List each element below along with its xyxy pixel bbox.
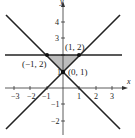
x-tick-label: −1 xyxy=(42,92,51,101)
point-neg1-2 xyxy=(45,53,49,57)
x-tick-label: 2 xyxy=(94,92,98,101)
y-tick-label: 3 xyxy=(55,34,59,43)
graph: −3 −2 −1 1 2 3 4 3 1 −1 −2 x y (−1, 2) (… xyxy=(0,0,135,138)
point-1-2 xyxy=(77,53,81,57)
x-tick-label: −3 xyxy=(11,92,20,101)
y-tick-label: −2 xyxy=(51,117,60,126)
y-tick-label: 4 xyxy=(55,18,59,27)
x-tick-label: 3 xyxy=(110,92,114,101)
x-axis-arrow-icon xyxy=(122,86,128,90)
x-axis-label: x xyxy=(126,77,131,86)
x-tick-label: 1 xyxy=(77,92,81,101)
point-label-0-1: (0, 1) xyxy=(68,67,88,77)
point-label-1-2: (1, 2) xyxy=(65,42,85,52)
y-tick-label: −1 xyxy=(51,100,60,109)
x-tick-label: −2 xyxy=(27,92,36,101)
point-label-neg1-2: (−1, 2) xyxy=(22,59,47,69)
y-tick-label: 1 xyxy=(57,68,61,77)
point-0-1 xyxy=(61,70,65,74)
y-axis-label: y xyxy=(59,0,64,6)
